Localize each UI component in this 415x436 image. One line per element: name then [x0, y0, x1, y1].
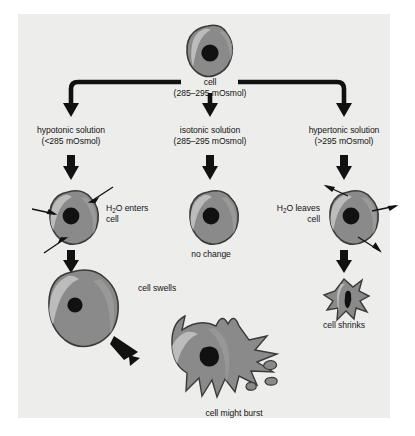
source-cell-label: cell: [204, 77, 217, 88]
water-enters-line1: H2O enters: [106, 203, 148, 214]
hypertonic-label: hypertonic solution: [309, 125, 380, 136]
nucleus: [201, 44, 218, 61]
h2o-rest: O enters: [116, 203, 149, 213]
hypotonic-value: (<285 mOsmol): [42, 136, 101, 147]
source-cell-graphic: [187, 25, 233, 76]
osmosis-diagram: cell (285–295 mOsmol) hypotonic solution…: [0, 0, 415, 436]
cell-might-burst-label: cell might burst: [206, 408, 263, 419]
water-leaves-line1: H2O leaves: [277, 203, 320, 214]
shrunken-cell-graphic: [324, 279, 369, 320]
nucleus: [343, 208, 360, 225]
isotonic-label: isotonic solution: [180, 125, 240, 136]
h2o-subscript: 2: [283, 207, 287, 214]
arrow-isotonic-down: [202, 155, 218, 180]
isotonic-cell-graphic: [190, 191, 238, 244]
hypotonic-cell-graphic: [50, 191, 98, 244]
water-enters-line2: cell: [106, 214, 119, 225]
diagram-graphics: [0, 0, 415, 436]
burst-cell-graphic: [169, 316, 277, 397]
source-cell-osmolarity: (285–295 mOsmol): [174, 88, 247, 99]
hypertonic-cell-graphic: [330, 191, 378, 244]
swollen-cell-graphic: [49, 270, 119, 347]
no-change-label: no change: [191, 249, 231, 260]
arrow-swell-down: [63, 250, 79, 273]
h2o-subscript: 2: [112, 207, 116, 214]
cell-swells-label: cell swells: [138, 283, 176, 294]
arrowheads-row1: [63, 103, 352, 117]
arrow-shrink-down: [336, 250, 352, 273]
arrows-row2: [63, 155, 352, 180]
arrow-hypertonic-down: [336, 155, 352, 180]
isotonic-value: (285–295 mOsmol): [174, 136, 247, 147]
hypertonic-value: (>295 mOsmol): [315, 136, 374, 147]
nucleus: [203, 208, 220, 225]
cell-shrinks-label: cell shrinks: [323, 320, 365, 331]
nucleus: [67, 297, 82, 312]
nucleus: [63, 208, 80, 225]
hypotonic-label: hypotonic solution: [37, 125, 105, 136]
arrow-hypotonic-down: [63, 155, 79, 180]
water-leaves-line2: cell: [307, 214, 320, 225]
h2o-rest: O leaves: [286, 203, 320, 213]
arrow-to-burst: [110, 336, 140, 366]
